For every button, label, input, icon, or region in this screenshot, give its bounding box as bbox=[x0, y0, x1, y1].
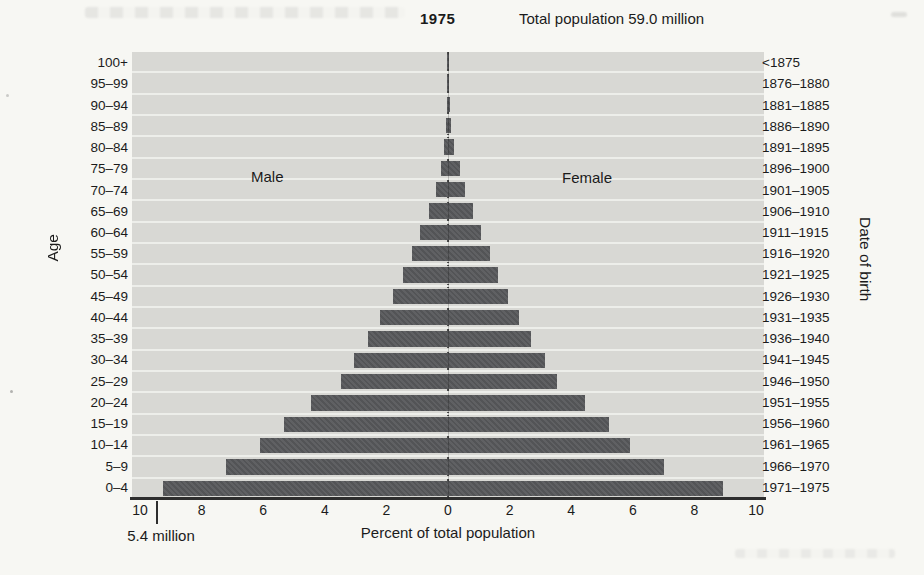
male-bar bbox=[393, 289, 448, 304]
x-axis-tick-label: 0 bbox=[444, 502, 452, 518]
female-bar bbox=[448, 459, 664, 474]
female-bar bbox=[448, 139, 454, 154]
birth-cohort-label-column: <18751876–18801881–18851886–18901891–189… bbox=[762, 52, 892, 498]
male-bar bbox=[341, 374, 448, 389]
age-group-label: 60–64 bbox=[0, 222, 128, 243]
age-group-label: 0–4 bbox=[0, 477, 128, 498]
birth-cohort-label: 1881–1885 bbox=[762, 94, 892, 115]
birth-cohort-label: 1946–1950 bbox=[762, 371, 892, 392]
birth-cohort-label: 1891–1895 bbox=[762, 137, 892, 158]
plot-area bbox=[132, 52, 764, 498]
birth-cohort-label: 1886–1890 bbox=[762, 116, 892, 137]
male-bar bbox=[368, 331, 448, 346]
female-bar bbox=[448, 310, 519, 325]
female-bar bbox=[448, 417, 609, 432]
birth-cohort-label: 1901–1905 bbox=[762, 179, 892, 200]
birth-cohort-label: <1875 bbox=[762, 52, 892, 73]
age-group-label: 55–59 bbox=[0, 243, 128, 264]
male-bar bbox=[284, 417, 448, 432]
x-axis-tick-label: 2 bbox=[506, 502, 514, 518]
x-axis-title: Percent of total population bbox=[132, 524, 764, 541]
male-bar bbox=[226, 459, 448, 474]
x-axis-tick-label: 10 bbox=[748, 502, 764, 518]
age-group-label: 40–44 bbox=[0, 307, 128, 328]
female-bar bbox=[448, 438, 630, 453]
male-bar bbox=[436, 182, 448, 197]
male-bar bbox=[420, 225, 448, 240]
male-side-label: Male bbox=[251, 168, 284, 185]
birth-cohort-label: 1961–1965 bbox=[762, 434, 892, 455]
scan-artifact bbox=[891, 12, 907, 17]
age-group-label: 15–19 bbox=[0, 413, 128, 434]
female-bar bbox=[448, 353, 545, 368]
annotation-5-4-million: 5.4 million bbox=[103, 527, 219, 544]
female-bar bbox=[448, 203, 473, 218]
female-bar bbox=[448, 374, 557, 389]
female-bar bbox=[448, 481, 723, 496]
female-bar bbox=[448, 395, 585, 410]
male-bar bbox=[412, 246, 448, 261]
age-group-label: 85–89 bbox=[0, 116, 128, 137]
birth-cohort-label: 1921–1925 bbox=[762, 264, 892, 285]
female-side-label: Female bbox=[562, 169, 612, 186]
male-bar bbox=[380, 310, 448, 325]
male-bar bbox=[429, 203, 448, 218]
age-group-label: 50–54 bbox=[0, 264, 128, 285]
male-bar bbox=[403, 267, 448, 282]
x-axis-tick-label: 10 bbox=[132, 502, 148, 518]
female-bar bbox=[448, 225, 481, 240]
birth-cohort-label: 1931–1935 bbox=[762, 307, 892, 328]
x-axis-tick-label: 6 bbox=[259, 502, 267, 518]
age-group-label: 100+ bbox=[0, 52, 128, 73]
x-axis-tick-label: 8 bbox=[198, 502, 206, 518]
age-group-label: 30–34 bbox=[0, 349, 128, 370]
age-group-label: 35–39 bbox=[0, 328, 128, 349]
scan-artifact bbox=[735, 549, 895, 558]
zero-centerline bbox=[448, 52, 449, 498]
female-bar bbox=[448, 331, 531, 346]
female-bar bbox=[448, 161, 460, 176]
male-bar bbox=[354, 353, 448, 368]
female-bar bbox=[448, 182, 465, 197]
age-group-label: 65–69 bbox=[0, 201, 128, 222]
birth-cohort-label: 1916–1920 bbox=[762, 243, 892, 264]
birth-cohort-label: 1896–1900 bbox=[762, 158, 892, 179]
male-bar bbox=[260, 438, 448, 453]
male-bar bbox=[311, 395, 448, 410]
chart-title-year: 1975 bbox=[420, 10, 455, 27]
age-group-label: 45–49 bbox=[0, 286, 128, 307]
female-bar bbox=[448, 289, 508, 304]
birth-cohort-label: 1951–1955 bbox=[762, 392, 892, 413]
age-group-label: 75–79 bbox=[0, 158, 128, 179]
x-axis-tick-label: 4 bbox=[567, 502, 575, 518]
birth-cohort-label: 1971–1975 bbox=[762, 477, 892, 498]
birth-cohort-label: 1911–1915 bbox=[762, 222, 892, 243]
x-axis-tick-label: 6 bbox=[629, 502, 637, 518]
birth-cohort-label: 1926–1930 bbox=[762, 286, 892, 307]
age-group-label: 95–99 bbox=[0, 73, 128, 94]
x-axis-tick-label: 8 bbox=[690, 502, 698, 518]
birth-cohort-label: 1956–1960 bbox=[762, 413, 892, 434]
birth-cohort-label: 1966–1970 bbox=[762, 455, 892, 476]
age-group-label: 70–74 bbox=[0, 179, 128, 200]
female-bar bbox=[448, 267, 498, 282]
female-bar bbox=[448, 246, 490, 261]
x-axis-tick-label: 4 bbox=[321, 502, 329, 518]
x-axis-ticks: 1086420246810 bbox=[132, 502, 764, 520]
birth-cohort-label: 1941–1945 bbox=[762, 349, 892, 370]
age-group-label: 90–94 bbox=[0, 94, 128, 115]
age-group-label: 20–24 bbox=[0, 392, 128, 413]
birth-cohort-label: 1936–1940 bbox=[762, 328, 892, 349]
age-group-label: 80–84 bbox=[0, 137, 128, 158]
age-group-label: 10–14 bbox=[0, 434, 128, 455]
male-bar bbox=[163, 481, 448, 496]
age-group-label: 5–9 bbox=[0, 455, 128, 476]
x-axis-tick-label: 2 bbox=[382, 502, 390, 518]
birth-cohort-label: 1876–1880 bbox=[762, 73, 892, 94]
scanned-book-page: 1975 Total population 59.0 million Age D… bbox=[0, 0, 924, 575]
scan-artifact bbox=[85, 7, 405, 18]
chart-subtitle-total-population: Total population 59.0 million bbox=[519, 10, 704, 27]
birth-cohort-label: 1906–1910 bbox=[762, 201, 892, 222]
annotation-tick-mark bbox=[156, 501, 158, 524]
age-label-column: 100+95–9990–9485–8980–8475–7970–7465–696… bbox=[0, 52, 128, 498]
